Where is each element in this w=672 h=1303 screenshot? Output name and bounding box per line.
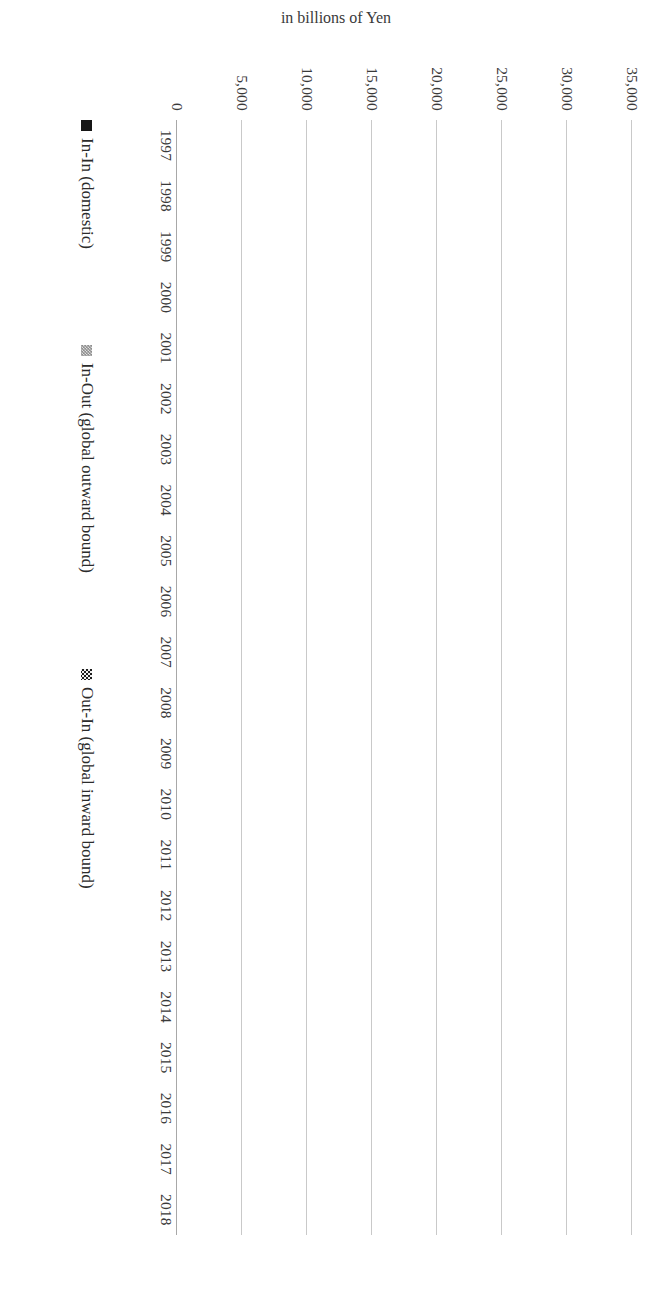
bar-slot	[177, 1184, 632, 1235]
bar-slot	[177, 373, 632, 424]
category-axis-tick-label: 1998	[149, 171, 175, 222]
bar-slot	[177, 526, 632, 577]
category-axis-tick-label: 2009	[149, 728, 175, 779]
value-axis-title: in billions of Yen	[281, 9, 391, 27]
legend-label: In-In (domestic)	[77, 138, 97, 249]
category-axis-tick-label: 2014	[149, 982, 175, 1033]
category-axis-tick-label: 1999	[149, 221, 175, 272]
bar-slot	[177, 475, 632, 526]
bar-slot	[177, 830, 632, 881]
chart-legend: In-In (domestic)In-Out (global outward b…	[77, 120, 97, 1235]
category-axis-tick-label: 2008	[149, 678, 175, 729]
value-axis-tick-label: 10,000	[298, 67, 316, 111]
category-axis-tick-label: 2007	[149, 627, 175, 678]
category-axis-tick-label: 2006	[149, 576, 175, 627]
legend-swatch-inin-icon	[82, 120, 93, 131]
legend-swatch-inout-icon	[82, 345, 93, 356]
value-axis-tick-label: 25,000	[493, 67, 511, 111]
legend-label: In-Out (global outward bound)	[77, 363, 97, 573]
category-axis-tick-label: 2002	[149, 373, 175, 424]
category-axis-tick-label: 2018	[149, 1184, 175, 1235]
bar-group	[177, 120, 632, 1235]
bar-slot	[177, 931, 632, 982]
legend-item-outin[interactable]: Out-In (global inward bound)	[77, 669, 97, 889]
bar-slot	[177, 627, 632, 678]
bar-slot	[177, 221, 632, 272]
category-axis-tick-label: 2017	[149, 1134, 175, 1185]
category-axis-tick-label: 2003	[149, 424, 175, 475]
value-axis-tick-label: 15,000	[363, 67, 381, 111]
value-axis-tick-label: 30,000	[558, 67, 576, 111]
category-axis-tick-label: 2015	[149, 1032, 175, 1083]
bar-slot	[177, 323, 632, 374]
value-axis-tick-label: 20,000	[428, 67, 446, 111]
category-axis-tick-label: 2010	[149, 779, 175, 830]
legend-item-inout[interactable]: In-Out (global outward bound)	[77, 345, 97, 573]
bar-slot	[177, 880, 632, 931]
legend-swatch-outin-icon	[82, 669, 93, 680]
legend-item-inin[interactable]: In-In (domestic)	[77, 120, 97, 249]
category-axis-tick-label: 2012	[149, 880, 175, 931]
category-axis-tick-label: 2013	[149, 931, 175, 982]
bar-slot	[177, 171, 632, 222]
category-axis: 1997199819992000200120022003200420052006…	[149, 120, 175, 1235]
stacked-bar-chart: in billions of Yen 05,00010,00015,00020,…	[0, 0, 672, 1303]
value-axis-tick-label: 35,000	[623, 67, 641, 111]
bar-slot	[177, 982, 632, 1033]
value-axis-tick-label: 0	[168, 103, 186, 111]
bar-slot	[177, 728, 632, 779]
bar-slot	[177, 424, 632, 475]
bar-slot	[177, 1134, 632, 1185]
plot-area: 05,00010,00015,00020,00025,00030,00035,0…	[177, 120, 632, 1235]
category-axis-tick-label: 2011	[149, 830, 175, 881]
legend-label: Out-In (global inward bound)	[77, 687, 97, 889]
bar-slot	[177, 1032, 632, 1083]
category-axis-tick-label: 2016	[149, 1083, 175, 1134]
category-axis-tick-label: 2005	[149, 526, 175, 577]
category-axis-tick-label: 2001	[149, 323, 175, 374]
value-axis-tick-label: 5,000	[233, 75, 251, 111]
bar-slot	[177, 779, 632, 830]
bar-slot	[177, 678, 632, 729]
rotated-chart-stage: in billions of Yen 05,00010,00015,00020,…	[0, 0, 672, 1303]
category-axis-tick-label: 2000	[149, 272, 175, 323]
bar-slot	[177, 272, 632, 323]
chart-page: in billions of Yen 05,00010,00015,00020,…	[0, 0, 672, 1303]
bar-slot	[177, 120, 632, 171]
bar-slot	[177, 576, 632, 627]
bar-slot	[177, 1083, 632, 1134]
category-axis-tick-label: 2004	[149, 475, 175, 526]
category-axis-tick-label: 1997	[149, 120, 175, 171]
